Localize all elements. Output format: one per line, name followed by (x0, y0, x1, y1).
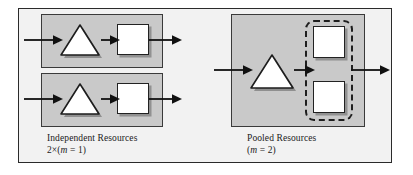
independent-resources-caption-title: Independent Resources (47, 133, 137, 143)
pooled-queue-triangle (249, 52, 297, 92)
pooled-server-square-2 (313, 81, 345, 113)
independent-group-2-queue-triangle (59, 81, 103, 117)
pooled-queue-to-server-arrow (294, 63, 316, 77)
independent-group-1-server-square (117, 24, 149, 55)
independent-group-2-queue-to-server-arrow (101, 92, 121, 106)
independent-group-1-queue-to-server-arrow (101, 33, 121, 47)
independent-resources-caption: Independent Resources 2×(m = 1) (47, 132, 137, 156)
pooled-server-square-1 (313, 26, 345, 58)
pooled-resources-caption-formula: (m = 2) (247, 144, 316, 156)
pooled-resources-caption: Pooled Resources (m = 2) (247, 132, 316, 156)
independent-group-2-departure-arrow (149, 92, 183, 106)
independent-group-2-arrival-arrow (24, 92, 64, 106)
formula-variable: m (61, 145, 68, 155)
formula-tail: = 1) (68, 145, 87, 155)
pooled-arrival-arrow (214, 63, 254, 77)
formula-prefix: 2×( (47, 145, 61, 155)
independent-group-1-queue-triangle (59, 22, 103, 58)
independent-group-1-arrival-arrow (24, 33, 64, 47)
independent-group-1-departure-arrow (149, 33, 183, 47)
independent-resources-caption-formula: 2×(m = 1) (47, 144, 137, 156)
formula-tail: = 2) (257, 145, 276, 155)
pooled-departure-arrow (351, 63, 391, 77)
independent-group-2-server-square (117, 83, 149, 114)
figure-root: Independent Resources 2×(m = 1) Pooled R… (0, 0, 413, 175)
pooled-resources-caption-title: Pooled Resources (247, 133, 316, 143)
